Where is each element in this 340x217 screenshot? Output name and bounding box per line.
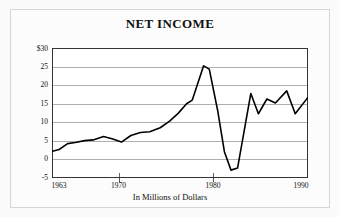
x-tick-mark-outer bbox=[213, 178, 214, 182]
plot-svg bbox=[52, 48, 308, 178]
plot-area bbox=[52, 48, 308, 178]
x-tick-mark-outer bbox=[119, 178, 120, 182]
y-tick-label: 25 bbox=[4, 63, 48, 71]
y-tick-label: 10 bbox=[4, 118, 48, 126]
y-axis-tick-labels: $302520151050-5 bbox=[0, 48, 48, 178]
x-tick-label: 1980 bbox=[206, 182, 221, 190]
y-tick-label: 0 bbox=[4, 155, 48, 163]
y-tick-label: 15 bbox=[4, 100, 48, 108]
x-tick-label: 1963 bbox=[52, 182, 67, 190]
chart-figure: NET INCOME $302520151050-5 1963197019801… bbox=[0, 0, 340, 217]
chart-title: NET INCOME bbox=[0, 16, 340, 32]
x-axis-caption: In Millions of Dollars bbox=[0, 192, 340, 202]
y-tick-label: 20 bbox=[4, 81, 48, 89]
x-tick-label: 1990 bbox=[294, 182, 309, 190]
y-tick-label: -5 bbox=[4, 174, 48, 182]
y-tick-label: 5 bbox=[4, 137, 48, 145]
x-tick-label: 1970 bbox=[111, 182, 126, 190]
y-tick-label: $30 bbox=[4, 45, 48, 53]
